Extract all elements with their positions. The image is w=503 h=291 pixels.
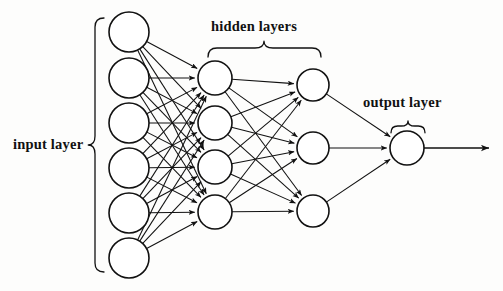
neuron-layer1-node2 <box>198 150 232 184</box>
neuron-layer0-node0 <box>109 12 149 52</box>
neuron-layer3-node0 <box>390 131 424 165</box>
edge-l0-n5-to-n3 <box>147 222 198 249</box>
neuron-layer1-node3 <box>198 195 232 229</box>
edge-l2-n2-to-n0 <box>326 159 390 202</box>
hidden-layers-label: hidden layers <box>211 18 297 35</box>
neuron-layer2-node1 <box>297 132 329 164</box>
edge-l0-n0-to-n0 <box>147 41 198 68</box>
edge-l1-n0-to-n0 <box>232 79 294 83</box>
neuron-layer0-node4 <box>109 193 149 233</box>
neuron-layer0-node1 <box>109 58 149 98</box>
edge-l1-n3-to-n2 <box>232 211 294 212</box>
edge-l1-n1-to-n1 <box>231 127 294 143</box>
edge-l1-n2-to-n0 <box>228 97 298 156</box>
input-layer-label: input layer <box>13 136 83 153</box>
neuron-layer2-node2 <box>297 195 329 227</box>
neuron-layer1-node0 <box>198 61 232 95</box>
neuron-layer0-node3 <box>109 148 149 188</box>
output-layer-label: output layer <box>363 94 442 111</box>
neuron-layer0-node5 <box>109 238 149 278</box>
input-layer-brace <box>88 18 104 272</box>
neuron-layer2-node0 <box>297 69 329 101</box>
neuron-layer0-node2 <box>109 103 149 143</box>
hidden-layers-brace <box>208 41 321 57</box>
neuron-layer1-node1 <box>198 106 232 140</box>
edge-l1-n2-to-n2 <box>231 174 296 203</box>
neural-network-diagram: input layer hidden layers output layer <box>0 0 503 291</box>
edge-l1-n2-to-n1 <box>232 152 294 164</box>
braces-group <box>88 18 425 272</box>
edges-group <box>138 41 391 248</box>
